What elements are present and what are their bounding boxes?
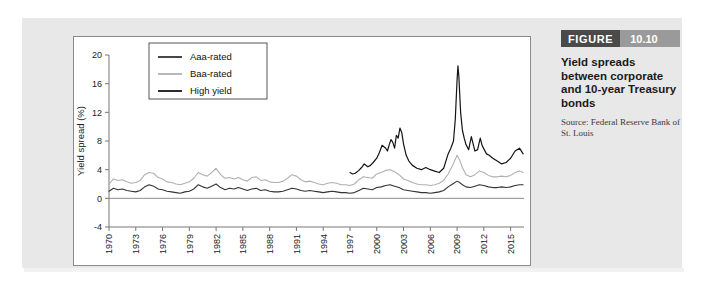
y-tick-label: 4 (97, 165, 102, 175)
legend-label-1: Baa-rated (190, 68, 232, 79)
x-tick-label: 1973 (131, 234, 141, 254)
y-tick-label: 0 (97, 194, 102, 204)
x-tick-label: 1985 (238, 234, 248, 254)
figure-title: Yield spreads between corporate and 10-y… (561, 56, 683, 110)
legend-label-2: High yield (190, 85, 232, 96)
figure-label: FIGURE (561, 30, 620, 47)
x-tick-label: 1976 (158, 234, 168, 254)
figure-container: -404812162019701973197619791982198519881… (0, 0, 709, 300)
series-line-baa-rated (109, 155, 523, 185)
series-line-high-yield (350, 66, 523, 174)
figure-source: Source: Federal Reserve Bank of St. Loui… (561, 117, 683, 139)
x-tick-label: 1979 (185, 234, 195, 254)
x-tick-label: 2003 (399, 234, 409, 254)
panel-shadow (24, 268, 684, 272)
x-tick-label: 2006 (426, 234, 436, 254)
x-tick-label: 2000 (372, 234, 382, 254)
y-tick-label: 8 (97, 136, 102, 146)
figure-number: 10.10 (620, 30, 680, 47)
figure-header: FIGURE 10.10 (561, 30, 680, 47)
y-tick-label: 20 (92, 50, 102, 60)
x-tick-label: 1982 (211, 234, 221, 254)
figure-caption: FIGURE 10.10 Yield spreads between corpo… (561, 30, 689, 139)
y-axis-title: Yield spread (%) (75, 106, 86, 176)
x-tick-label: 1988 (265, 234, 275, 254)
x-tick-label: 2009 (452, 234, 462, 254)
y-tick-label: 12 (92, 108, 102, 118)
x-tick-label: 1994 (319, 234, 329, 254)
x-tick-label: 2015 (506, 234, 516, 254)
y-tick-label: -4 (94, 222, 102, 232)
chart-plot-area: -404812162019701973197619791982198519881… (73, 36, 531, 266)
x-tick-label: 1997 (345, 234, 355, 254)
x-tick-label: 1970 (104, 234, 114, 254)
x-tick-label: 2012 (479, 234, 489, 254)
y-tick-label: 16 (92, 79, 102, 89)
legend-label-0: Aaa-rated (190, 51, 232, 62)
yield-spread-line-chart: -404812162019701973197619791982198519881… (74, 37, 530, 265)
x-tick-label: 1991 (292, 234, 302, 254)
